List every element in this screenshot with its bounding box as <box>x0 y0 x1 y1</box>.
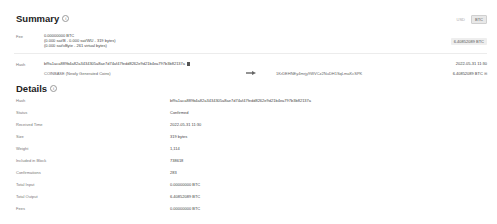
details-title: Details i <box>16 83 57 94</box>
fee-value: 0.00000000 BTC (0.000 sat/B - 0.000 sat/… <box>44 33 116 48</box>
unspent-icon: ⊞ <box>484 71 487 76</box>
output-amount-text: 6.40852089 BTC <box>453 71 483 76</box>
output-address[interactable]: 1KrDEHNEy4mrjy9WVCz2NuDH1SqLmaKcSPK <box>276 71 362 76</box>
detail-label-total-output: Total Output <box>16 194 38 199</box>
hash-date: 2022-05-31 11:30 <box>456 61 487 66</box>
hash-label: Hash <box>16 62 25 67</box>
currency-btc-button[interactable]: BTC <box>471 15 487 24</box>
divider <box>14 53 487 54</box>
detail-value-total-input: 0.00000000 BTC <box>170 182 200 187</box>
detail-value-block[interactable]: 738618 <box>170 158 183 163</box>
detail-label-received-time: Received Time <box>16 122 42 127</box>
arrow-right-icon <box>246 71 256 75</box>
detail-value-weight: 1,114 <box>170 146 180 151</box>
detail-value-fees: 0.00000000 BTC <box>170 206 200 211</box>
details-title-text: Details <box>16 83 47 94</box>
info-icon[interactable]: i <box>50 85 57 92</box>
fee-label: Fee <box>16 34 23 39</box>
detail-label-confirmations: Confirmations <box>16 170 41 175</box>
detail-value-size: 319 bytes <box>170 134 187 139</box>
detail-label-size: Size <box>16 134 24 139</box>
currency-toggle: USD BTC <box>455 15 487 24</box>
hash-value: bf9a1aca889b4a82a3434305a8ae7d74af47fedd… <box>44 61 190 66</box>
coinbase-input: COINBASE (Newly Generated Coins) <box>44 71 111 76</box>
detail-label-block: Included in Block <box>16 158 46 163</box>
fee-sat-per-vbyte: (0.000 sat/vByte - 261 virtual bytes) <box>44 43 116 48</box>
summary-title-text: Summary <box>16 13 59 24</box>
detail-value-status: Confirmed <box>170 110 188 115</box>
copy-icon[interactable] <box>187 62 190 66</box>
detail-value-confirmations: 283 <box>170 170 177 175</box>
detail-label-hash: Hash <box>16 98 25 103</box>
detail-label-weight: Weight <box>16 146 28 151</box>
detail-label-fees: Fees <box>16 206 25 211</box>
detail-value-received-time: 2022-05-31 11:30 <box>170 122 201 127</box>
detail-label-status: Status <box>16 110 27 115</box>
detail-label-total-input: Total Input <box>16 182 34 187</box>
detail-value-total-output: 6.40852089 BTC <box>170 194 200 199</box>
total-amount-badge: 6.40852089 BTC <box>451 38 487 45</box>
output-amount: 6.40852089 BTC ⊞ <box>453 71 487 76</box>
hash-text[interactable]: bf9a1aca889b4a82a3434305a8ae7d74af47fedd… <box>44 61 185 66</box>
currency-usd-button[interactable]: USD <box>455 16 467 23</box>
info-icon[interactable]: i <box>62 15 69 22</box>
detail-value-hash[interactable]: bf9a1aca889b4a82a3434305a8ae7d74af47fedd… <box>170 98 311 103</box>
summary-title: Summary i <box>16 13 69 24</box>
